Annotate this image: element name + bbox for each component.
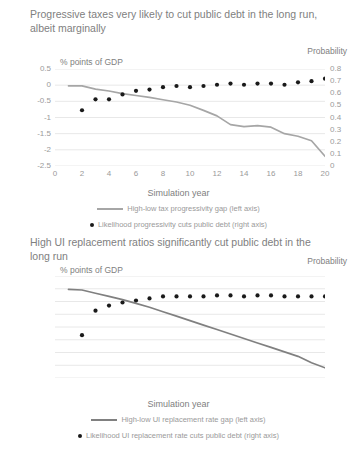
legend-item-line: High-low tax progressivity gap (left axi… [0,203,357,214]
series-point [147,88,151,92]
legend-bottom: High-low UI replacement rate gap (left a… [0,414,357,441]
series-point [174,84,178,88]
line-swatch-icon [91,419,117,421]
chart-panel-progressive-taxes: Progressive taxes very likely to cut pub… [0,0,357,232]
series-point [174,294,178,298]
series-point [80,333,84,337]
series-point [188,85,192,89]
series-point [107,303,111,307]
series-point [107,97,111,101]
chart-title: High UI replacement ratios significantly… [30,236,320,263]
series-point [242,83,246,87]
series-point [309,294,313,298]
legend-label: High-low tax progressivity gap (left axi… [127,203,260,214]
y-tick-label: -1.5 [25,129,51,138]
series-point [161,85,165,89]
legend-item-dot: Likelihood progressivity cuts public deb… [0,219,357,230]
x-axis-title: Simulation year [0,188,357,198]
series-point [269,293,273,297]
series-point [282,83,286,87]
plot-area-top [55,69,325,166]
y2-tick-label: 0.4 [330,113,352,122]
series-point [255,81,259,85]
x-axis-title: Simulation year [0,399,357,409]
series-point [120,92,124,96]
x-tick-label: 10 [180,169,200,178]
legend-label: Likelihood UI replacement rate cuts publ… [86,430,279,441]
right-axis-caption: Probability [307,256,347,266]
y-tick-label: 0 [25,80,51,89]
series-point [93,97,97,101]
series-point [188,294,192,298]
series-point [134,89,138,93]
y2-tick-label: 0.1 [330,149,352,158]
x-tick-label: 4 [99,169,119,178]
y2-tick-label: 0.8 [330,64,352,73]
y2-tick-label: 0.5 [330,100,352,109]
y-tick-label: 0.5 [25,64,51,73]
y2-tick-label: 0.2 [330,137,352,146]
series-point [269,81,273,85]
legend-item-line: High-low UI replacement rate gap (left a… [0,414,357,425]
series-point [147,296,151,300]
dot-swatch-icon [78,434,82,438]
series-point [255,293,259,297]
series-point [161,294,165,298]
series-point [296,80,300,84]
plot-area-bottom [55,276,325,378]
series-point [228,293,232,297]
x-tick-label: 12 [207,169,227,178]
series-point [228,81,232,85]
legend-top: High-low tax progressivity gap (left axi… [0,203,357,230]
series-point [282,294,286,298]
chart-title: Progressive taxes very likely to cut pub… [30,8,320,35]
x-tick-label: 20 [315,169,335,178]
left-axis-caption: % points of GDP [60,265,123,275]
x-tick-label: 18 [288,169,308,178]
series-point [134,298,138,302]
right-axis-caption: Probability [307,46,347,56]
series-point [215,293,219,297]
x-tick-label: 8 [153,169,173,178]
y2-tick-label: 0.3 [330,125,352,134]
x-tick-label: 6 [126,169,146,178]
legend-item-dot: Likelihood UI replacement rate cuts publ… [0,430,357,441]
series-point [242,294,246,298]
series-point [120,300,124,304]
x-tick-label: 0 [45,169,65,178]
y2-tick-label: 0.6 [330,88,352,97]
series-point [201,84,205,88]
series-point [309,79,313,83]
series-point [215,83,219,87]
series-point [201,294,205,298]
series-point [296,294,300,298]
legend-label: High-low UI replacement rate gap (left a… [121,414,265,425]
series-line [69,86,326,156]
x-tick-label: 16 [261,169,281,178]
plot-svg-bottom [55,276,325,378]
plot-svg-top [55,69,325,166]
y-tick-label: -0.5 [25,96,51,105]
series-point [323,294,325,298]
y-tick-label: -2 [25,145,51,154]
left-axis-caption: % points of GDP [60,57,123,67]
line-swatch-icon [97,208,123,210]
y-tick-label: -1 [25,113,51,122]
y2-tick-label: 0.7 [330,76,352,85]
series-point [80,108,84,112]
x-tick-label: 14 [234,169,254,178]
dot-swatch-icon [90,223,94,227]
x-tick-label: 2 [72,169,92,178]
series-point [323,77,325,81]
series-point [93,309,97,313]
chart-panel-ui-replacement: High UI replacement ratios significantly… [0,232,357,452]
legend-label: Likelihood progressivity cuts public deb… [98,219,267,230]
